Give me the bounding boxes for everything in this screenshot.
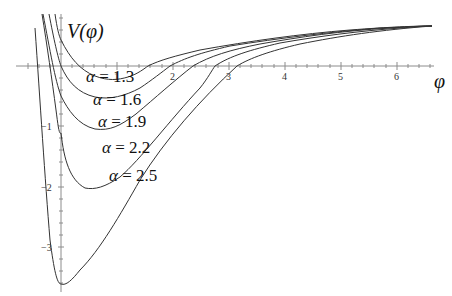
curve-label-alpha-1-9: α = 1.9 (98, 112, 146, 131)
curve-label-alpha-1-6: α = 1.6 (93, 90, 141, 109)
x-tick-label: 2 (170, 71, 175, 82)
y-axis-label: V(φ) (67, 20, 104, 43)
potential-plot: 1 2 3 4 5 6 −1 −2 −3 V(φ) φ α = 1.3 α = … (0, 0, 452, 296)
x-tick-label: 4 (282, 71, 287, 82)
curve-alpha-2-5 (35, 26, 432, 284)
x-tick-label: 5 (338, 71, 343, 82)
y-tick-label: −1 (41, 121, 52, 132)
curve-label-alpha-2-5: α = 2.5 (109, 166, 157, 185)
x-tick-label: 6 (394, 71, 399, 82)
curve-label-alpha-2-2: α = 2.2 (102, 138, 150, 157)
curve-label-alpha-1-3: α = 1.3 (86, 67, 134, 86)
x-axis-label: φ (434, 70, 445, 93)
